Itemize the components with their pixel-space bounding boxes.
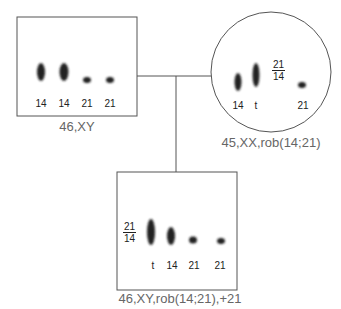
father-lane-label: 21 xyxy=(77,98,97,109)
father-karyotype: 46,XY xyxy=(17,119,137,134)
mother-karyotype: 45,XX,rob(14;21) xyxy=(211,135,331,150)
mother-lane-label: 14 xyxy=(228,100,248,111)
father-lane-label: 14 xyxy=(54,98,74,109)
mother-lane-label: t xyxy=(246,100,266,111)
child-lane-label: t xyxy=(143,260,163,271)
mother-symbol xyxy=(211,12,331,132)
child-lane-label: 14 xyxy=(162,260,182,271)
father-chromosomes xyxy=(37,63,114,83)
father-lane-label: 14 xyxy=(31,98,51,109)
mother-translocation-fraction: 21 14 xyxy=(272,59,285,82)
mother-chromosomes xyxy=(235,63,307,91)
father-lane-label: 21 xyxy=(100,98,120,109)
child-translocation-fraction: 21 14 xyxy=(123,221,136,244)
mother-lane-label: 21 xyxy=(293,100,313,111)
child-lane-label: 21 xyxy=(184,260,204,271)
child-karyotype: 46,XY,rob(14;21),+21 xyxy=(100,291,260,306)
child-lane-label: 21 xyxy=(210,260,230,271)
child-chromosomes xyxy=(147,219,225,245)
